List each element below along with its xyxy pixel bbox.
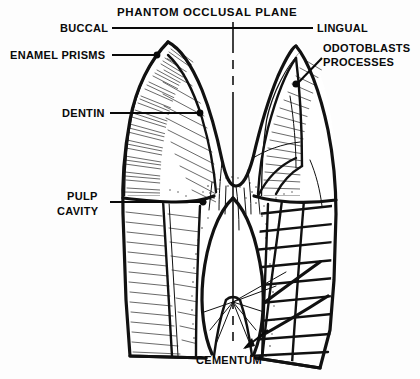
- lingual-label: LINGUAL: [317, 22, 368, 34]
- enamel-prisms-point: [154, 52, 161, 59]
- processes-label: PROCESSES: [323, 56, 394, 68]
- buccal-label: BUCCAL: [60, 22, 108, 34]
- cavity-label: CAVITY: [57, 205, 99, 217]
- dentin-label: DENTIN: [62, 107, 105, 119]
- dentin-point: [197, 110, 204, 117]
- pulp-label: PULP: [67, 190, 98, 202]
- tooth-body: [123, 42, 336, 368]
- phantom-plane-label: PHANTOM OCCLUSAL PLANE: [117, 6, 297, 18]
- odontoblasts-point: [292, 80, 299, 87]
- tooth-cross-section-diagram: PHANTOM OCCLUSAL PLANE BUCCAL LINGUAL EN…: [0, 0, 420, 379]
- odontoblasts-label: ODOTOBLASTS: [323, 42, 410, 54]
- cementum-label: CEMENTUM: [196, 354, 262, 366]
- enamel-prisms-label: ENAMEL PRISMS: [10, 49, 105, 61]
- pulp-cavity-point: [200, 199, 207, 206]
